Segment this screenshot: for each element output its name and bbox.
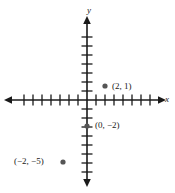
plotted-point <box>60 159 65 164</box>
plotted-point <box>102 83 107 88</box>
point-label: (2, 1) <box>112 82 132 91</box>
coordinate-plane-figure: (2, 1) (0, −2) (−2, −5) x y <box>0 0 175 193</box>
point-label: (0, −2) <box>95 121 120 130</box>
plotted-point <box>84 123 89 128</box>
y-axis-arrow-down <box>83 179 91 187</box>
x-axis-arrow-left <box>4 96 12 104</box>
y-axis-arrow-up <box>83 16 91 24</box>
point-label: (−2, −5) <box>14 157 44 166</box>
x-axis-label: x <box>165 95 169 104</box>
y-axis-label: y <box>87 6 91 15</box>
